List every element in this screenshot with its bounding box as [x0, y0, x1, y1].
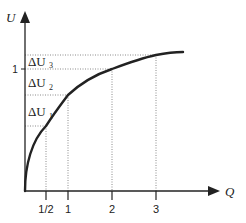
y-tick-label-1: 1	[12, 64, 18, 75]
x-tick-label-2: 2	[109, 203, 115, 215]
x-axis-arrow-icon	[208, 186, 220, 196]
delta-u2-label: ΔU 2	[28, 75, 53, 92]
x-axis-label: Q	[225, 184, 235, 199]
svg-text:ΔU: ΔU	[28, 54, 46, 69]
delta-u3-label: ΔU 3	[28, 54, 53, 70]
svg-text:ΔU: ΔU	[28, 104, 46, 119]
svg-text:1: 1	[49, 112, 53, 121]
svg-text:2: 2	[49, 83, 53, 92]
utility-curve	[25, 52, 183, 191]
y-axis-label: U	[6, 10, 17, 25]
utility-diagram: U Q 1/2 1 2 3 1 ΔU 1 ΔU 2 ΔU 3	[0, 0, 246, 223]
axes	[25, 20, 210, 191]
x-tick-label-3: 3	[153, 203, 159, 215]
delta-u1-label: ΔU 1	[28, 104, 53, 121]
y-axis-arrow-icon	[20, 11, 30, 23]
svg-text:3: 3	[49, 61, 53, 70]
x-tick-label-1: 1	[65, 203, 71, 215]
x-tick-label-half: 1/2	[38, 203, 53, 215]
x-ticks	[46, 191, 156, 200]
svg-text:ΔU: ΔU	[28, 75, 46, 90]
